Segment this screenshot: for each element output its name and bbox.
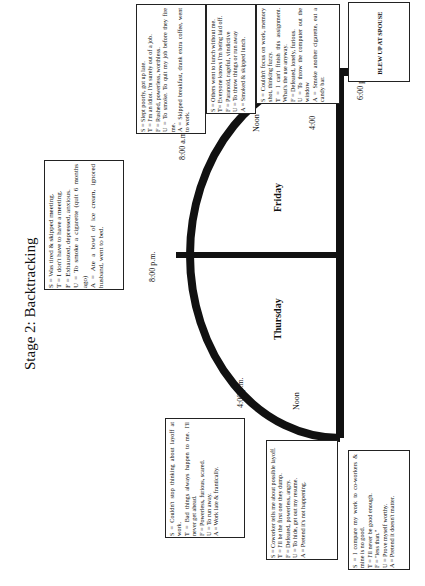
note-box-meeting: S = Was tired & skipped meeting.T = I do… [44, 160, 124, 290]
time-label: 8:00 p.m. [148, 252, 157, 282]
time-label: Noon [252, 114, 261, 132]
time-label: 4:00 p.m. [236, 378, 245, 408]
note-box-coworker: S = Coworker tells me about possible lay… [266, 440, 338, 560]
note-box-slept: S = Slept poorly, got up late.T = I'm an… [136, 4, 206, 134]
note-box-compare: S = I compare my work to co-workers & mi… [348, 450, 410, 570]
event-box-blew-up: BLEW UP AT SPOUSE [348, 2, 410, 82]
time-label: 4:00 [308, 116, 317, 130]
note-box-lunch: S = Others went to lunch without me.T= E… [206, 4, 256, 114]
note-box-focus: S = Couldn't focus on work, memory shot,… [256, 4, 340, 104]
day-friday: Friday [272, 183, 283, 212]
note-box-layoff-thoughts: S = Couldn't stop thinking about layoff … [165, 418, 245, 538]
time-label: Noon [292, 392, 301, 410]
page-title: Stage 2: Backtracking [22, 238, 39, 370]
day-thursday: Thursday [272, 298, 283, 340]
